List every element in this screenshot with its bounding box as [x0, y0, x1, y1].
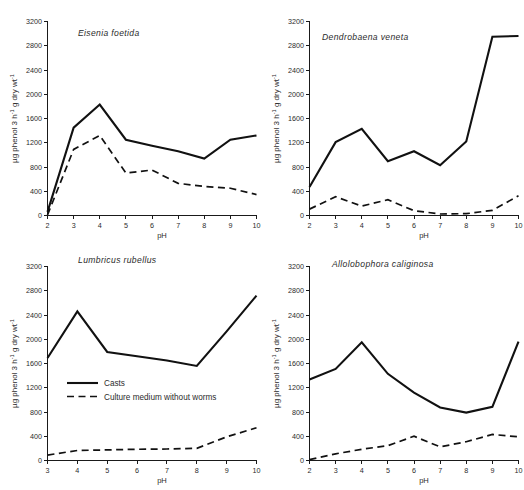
y-axis-title: µg phenol 3 h-1 g dry wt-1	[9, 74, 19, 163]
x-tick-label: 9	[490, 466, 494, 475]
y-tick-label: 2000	[288, 90, 304, 99]
chart-panel-eisenia-foetida: 0400800120016002000240028003200234567891…	[0, 0, 262, 245]
x-axis-title: pH	[419, 476, 429, 485]
y-tick-label: 1600	[288, 114, 304, 123]
chart-panel-lumbricus-rubellus: 0400800120016002000240028003200345678910…	[0, 245, 262, 490]
axes: 0400800120016002000240028003200234567891…	[288, 17, 523, 230]
panel-title: Eisenia foetida	[78, 28, 140, 38]
x-tick-label: 3	[334, 466, 338, 475]
x-tick-label: 2	[46, 221, 50, 230]
y-tick-label: 1200	[26, 138, 42, 147]
x-tick-label: 6	[135, 466, 139, 475]
x-tick-label: 7	[438, 466, 442, 475]
legend: CastsCulture medium without worms	[67, 379, 216, 402]
x-axis-title: pH	[157, 231, 167, 240]
x-tick-label: 9	[225, 466, 229, 475]
y-tick-label: 3200	[26, 262, 42, 271]
x-tick-label: 5	[124, 221, 128, 230]
x-tick-label: 6	[150, 221, 154, 230]
x-tick-label: 8	[202, 221, 206, 230]
x-tick-label: 10	[515, 221, 523, 230]
x-tick-label: 3	[72, 221, 76, 230]
y-tick-label: 2800	[288, 41, 304, 50]
y-tick-label: 3200	[288, 262, 304, 271]
y-tick-label: 1200	[288, 383, 304, 392]
x-tick-label: 6	[412, 221, 416, 230]
y-tick-label: 2000	[26, 90, 42, 99]
x-tick-label: 7	[438, 221, 442, 230]
y-tick-label: 0	[38, 456, 42, 465]
x-tick-label: 4	[75, 466, 79, 475]
x-tick-label: 9	[490, 221, 494, 230]
panel-title: Lumbricus rubellus	[78, 255, 157, 265]
x-tick-label: 6	[412, 466, 416, 475]
x-tick-label: 3	[46, 466, 50, 475]
x-tick-label: 4	[98, 221, 102, 230]
x-axis-title: pH	[157, 476, 167, 485]
y-tick-label: 2000	[26, 335, 42, 344]
y-axis-title: µg phenol 3 h-1 g dry wt-1	[9, 319, 19, 408]
x-tick-label: 4	[360, 466, 364, 475]
x-tick-label: 5	[386, 221, 390, 230]
y-tick-label: 1200	[26, 383, 42, 392]
x-tick-label: 10	[253, 466, 261, 475]
y-axis-title: µg phenol 3 h-1 g dry wt-1	[271, 319, 281, 408]
y-tick-label: 800	[292, 408, 304, 417]
chart-panel-dendrobaena-veneta: 0400800120016002000240028003200234567891…	[262, 0, 524, 245]
chart-svg-eisenia-foetida: 0400800120016002000240028003200234567891…	[0, 0, 262, 245]
y-tick-label: 2400	[288, 66, 304, 75]
y-tick-label: 400	[30, 187, 42, 196]
y-tick-label: 800	[292, 163, 304, 172]
x-tick-label: 5	[386, 466, 390, 475]
y-axis-title: µg phenol 3 h-1 g dry wt-1	[271, 74, 281, 163]
y-tick-label: 1600	[26, 359, 42, 368]
x-tick-label: 9	[228, 221, 232, 230]
series-line-casts	[310, 36, 519, 187]
figure-root: 0400800120016002000240028003200234567891…	[0, 0, 524, 490]
y-tick-label: 2800	[26, 41, 42, 50]
x-tick-label: 8	[464, 221, 468, 230]
x-tick-label: 7	[165, 466, 169, 475]
x-tick-label: 10	[253, 221, 261, 230]
y-tick-label: 3200	[288, 17, 304, 26]
y-tick-label: 2400	[26, 311, 42, 320]
y-tick-label: 800	[30, 163, 42, 172]
x-tick-label: 4	[360, 221, 364, 230]
x-tick-label: 5	[105, 466, 109, 475]
panel-title: Dendrobaena veneta	[322, 32, 409, 42]
x-tick-label: 8	[464, 466, 468, 475]
y-tick-label: 2400	[26, 66, 42, 75]
y-tick-label: 3200	[26, 17, 42, 26]
legend-label: Casts	[104, 379, 125, 388]
y-tick-label: 2400	[288, 311, 304, 320]
y-tick-label: 1600	[26, 114, 42, 123]
y-tick-label: 2800	[288, 286, 304, 295]
y-tick-label: 1200	[288, 138, 304, 147]
y-tick-label: 400	[292, 187, 304, 196]
axes: 0400800120016002000240028003200345678910	[26, 262, 261, 475]
chart-panel-allolobophora-caliginosa: 0400800120016002000240028003200234567891…	[262, 245, 524, 490]
x-tick-label: 7	[176, 221, 180, 230]
x-tick-label: 8	[195, 466, 199, 475]
series-line-culture-medium	[48, 135, 257, 214]
y-tick-label: 0	[38, 211, 42, 220]
y-tick-label: 800	[30, 408, 42, 417]
y-tick-label: 2800	[26, 286, 42, 295]
x-tick-label: 3	[334, 221, 338, 230]
axes: 0400800120016002000240028003200234567891…	[26, 17, 261, 230]
y-tick-label: 400	[30, 432, 42, 441]
series-line-casts	[310, 342, 519, 413]
legend-label: Culture medium without worms	[104, 393, 216, 402]
x-tick-label: 10	[515, 466, 523, 475]
y-tick-label: 400	[292, 432, 304, 441]
x-tick-label: 2	[308, 466, 312, 475]
y-tick-label: 1600	[288, 359, 304, 368]
x-axis-title: pH	[419, 231, 429, 240]
y-tick-label: 0	[300, 211, 304, 220]
series-line-culture-medium	[310, 434, 519, 459]
series-line-culture-medium	[310, 196, 519, 214]
chart-svg-allolobophora-caliginosa: 0400800120016002000240028003200234567891…	[262, 245, 524, 490]
panel-title: Allolobophora caliginosa	[331, 259, 434, 269]
y-tick-label: 2000	[288, 335, 304, 344]
axes: 0400800120016002000240028003200234567891…	[288, 262, 523, 475]
